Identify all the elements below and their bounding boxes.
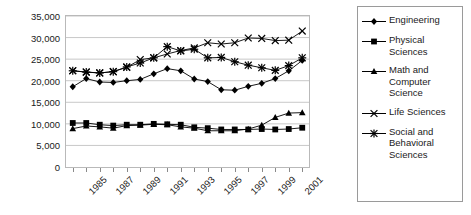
chart-root: First-Year Graduate Enrollment 05,00010,…: [0, 0, 471, 215]
x-tick-mark: [221, 168, 222, 172]
diamond-marker: [124, 77, 130, 84]
y-tick-label: 25,000: [31, 54, 60, 65]
star-marker: [69, 67, 77, 75]
chart-legend: EngineeringPhysical SciencesMath and Com…: [357, 6, 463, 202]
triangle-marker: [258, 122, 265, 128]
x-tick-label: 1989: [140, 174, 163, 197]
diamond-marker: [178, 67, 184, 74]
star-marker: [82, 68, 90, 76]
square-marker: [371, 39, 377, 45]
y-tick-label: 10,000: [31, 118, 60, 129]
x-marker-icon: [361, 106, 387, 119]
x-tick-mark: [262, 168, 263, 172]
diamond-marker: [97, 79, 103, 86]
series-social-and-behavioral-sciences: [69, 43, 307, 77]
x-tick-label: 1999: [275, 174, 298, 197]
diamond-marker: [371, 18, 377, 25]
star-marker: [163, 43, 171, 51]
star-marker: [258, 64, 266, 72]
legend-item-engineering[interactable]: Engineering: [361, 14, 458, 27]
x-tick-mark: [73, 168, 74, 172]
star-marker: [123, 63, 131, 71]
x-tick-mark: [167, 168, 168, 172]
star-marker: [96, 69, 104, 77]
square-marker: [272, 127, 278, 133]
x-tick-label: 1997: [248, 174, 271, 197]
x-tick-mark: [100, 168, 101, 172]
star-marker: [231, 58, 239, 66]
legend-item-math-and-computer-science[interactable]: Math and Computer Science: [361, 64, 458, 99]
x-tick-mark: [289, 168, 290, 172]
star-marker: [298, 54, 306, 62]
legend-label: Social and Behavioral Sciences: [387, 126, 458, 161]
legend-label: Physical Sciences: [387, 34, 458, 57]
x-tick-mark: [154, 168, 155, 172]
x-tick-label: 1991: [167, 174, 190, 197]
x-tick-label: 1985: [86, 174, 109, 197]
star-marker: [136, 59, 144, 67]
legend-label: Life Sciences: [387, 106, 446, 118]
x-marker: [164, 51, 171, 58]
diamond-marker: [70, 83, 76, 90]
plot-svg: [66, 16, 309, 167]
diamond-marker: [245, 83, 251, 90]
x-tick-mark: [302, 168, 303, 172]
y-tick-label: 35,000: [31, 11, 60, 22]
x-tick-mark: [275, 168, 276, 172]
star-marker: [217, 53, 225, 61]
x-tick-mark: [194, 168, 195, 172]
square-marker-icon: [361, 34, 387, 47]
x-tick-mark: [140, 168, 141, 172]
legend-item-physical-sciences[interactable]: Physical Sciences: [361, 34, 458, 57]
y-axis-tick-labels: 05,00010,00015,00020,00025,00030,00035,0…: [18, 11, 62, 169]
legend-label: Math and Computer Science: [387, 64, 458, 99]
y-tick-label: 20,000: [31, 75, 60, 86]
square-marker: [70, 120, 76, 126]
x-tick-label: 1987: [113, 174, 136, 197]
x-marker: [299, 28, 306, 35]
x-tick-mark: [113, 168, 114, 172]
chart-panel: First-Year Graduate Enrollment 05,00010,…: [0, 0, 352, 215]
star-marker: [150, 54, 158, 62]
x-axis-tick-labels: 198519871989199119931995199719992001: [65, 168, 310, 213]
diamond-marker: [110, 79, 116, 86]
legend-item-life-sciences[interactable]: Life Sciences: [361, 106, 458, 119]
plot-area: [65, 15, 310, 168]
diamond-marker: [151, 70, 157, 77]
diamond-marker: [218, 86, 224, 93]
square-marker: [299, 125, 305, 131]
diamond-marker: [205, 78, 211, 85]
legend-item-social-and-behavioral-sciences[interactable]: Social and Behavioral Sciences: [361, 126, 458, 161]
star-marker: [177, 47, 185, 55]
x-tick-mark: [127, 168, 128, 172]
x-tick-label: 2001: [302, 174, 325, 197]
y-tick-label: 30,000: [31, 32, 60, 43]
series-physical-sciences: [70, 120, 305, 132]
x-tick-label: 1995: [221, 174, 244, 197]
x-tick-mark: [235, 168, 236, 172]
star-marker: [204, 54, 212, 62]
diamond-marker-icon: [361, 14, 387, 27]
y-tick-label: 0: [55, 162, 60, 173]
x-tick-mark: [86, 168, 87, 172]
series-engineering: [70, 57, 306, 94]
star-marker: [109, 68, 117, 76]
star-marker: [190, 45, 198, 53]
star-marker: [271, 66, 279, 74]
star-marker: [370, 129, 378, 137]
diamond-marker: [191, 76, 197, 83]
star-marker: [285, 62, 293, 70]
y-tick-label: 5,000: [36, 140, 60, 151]
x-tick-mark: [208, 168, 209, 172]
diamond-marker: [232, 87, 238, 94]
triangle-marker: [299, 109, 306, 115]
x-tick-mark: [181, 168, 182, 172]
x-tick-mark: [248, 168, 249, 172]
y-tick-label: 15,000: [31, 97, 60, 108]
square-marker: [286, 126, 292, 132]
diamond-marker: [164, 65, 170, 72]
star-marker-icon: [361, 126, 387, 139]
x-tick-label: 1993: [194, 174, 217, 197]
diamond-marker: [137, 76, 143, 83]
star-marker: [244, 61, 252, 69]
